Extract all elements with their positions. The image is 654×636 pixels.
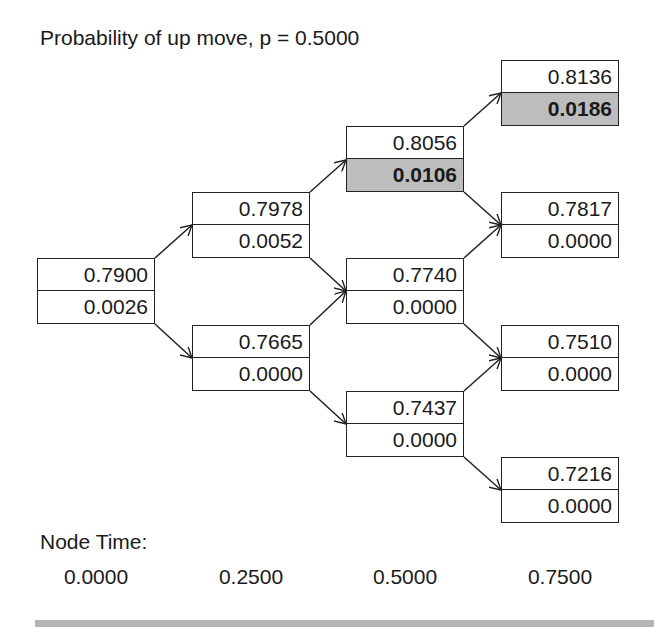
node-value: 0.7900: [38, 259, 154, 291]
arrow-up: [464, 225, 501, 258]
node-second-value: 0.0000: [347, 291, 463, 323]
tree-node-t3-1: 0.7817 0.0000: [501, 192, 619, 258]
node-time-label: Node Time:: [40, 530, 147, 554]
arrow-up: [464, 358, 501, 391]
node-second-value: 0.0026: [38, 291, 154, 323]
node-value: 0.7216: [502, 458, 618, 490]
tree-node-t2-0: 0.8056 0.0106: [346, 126, 464, 192]
arrow-down: [155, 324, 192, 358]
node-second-value: 0.0052: [193, 225, 309, 257]
node-time-1: 0.2500: [192, 565, 310, 589]
tree-node-t1-1: 0.7665 0.0000: [192, 325, 310, 391]
tree-node-t3-2: 0.7510 0.0000: [501, 325, 619, 391]
node-second-value: 0.0000: [502, 490, 618, 522]
arrow-up: [310, 160, 346, 192]
node-second-value: 0.0000: [193, 358, 309, 390]
node-time-2: 0.5000: [346, 565, 464, 589]
arrow-up: [310, 291, 346, 325]
node-second-value-highlighted: 0.0106: [347, 159, 463, 191]
node-value: 0.7437: [347, 392, 463, 424]
arrow-up: [464, 93, 501, 126]
tree-node-t1-0: 0.7978 0.0052: [192, 192, 310, 258]
arrow-up: [155, 225, 192, 258]
tree-node-t0-0: 0.7900 0.0026: [37, 258, 155, 324]
node-value: 0.8056: [347, 127, 463, 159]
node-second-value: 0.0000: [502, 225, 618, 257]
node-value: 0.7817: [502, 193, 618, 225]
node-value: 0.7665: [193, 326, 309, 358]
tree-node-t3-3: 0.7216 0.0000: [501, 457, 619, 523]
node-second-value: 0.0000: [502, 358, 618, 390]
arrow-down: [310, 258, 346, 291]
node-second-value: 0.0000: [347, 424, 463, 456]
tree-node-t3-0: 0.8136 0.0186: [501, 60, 619, 126]
node-value: 0.7510: [502, 326, 618, 358]
node-second-value-highlighted: 0.0186: [502, 93, 618, 125]
arrow-down: [464, 324, 501, 358]
divider: [35, 620, 654, 627]
node-value: 0.7978: [193, 193, 309, 225]
arrow-down: [310, 391, 346, 424]
node-time-3: 0.7500: [501, 565, 619, 589]
node-value: 0.8136: [502, 61, 618, 93]
arrow-down: [464, 457, 501, 490]
node-time-0: 0.0000: [37, 565, 155, 589]
tree-node-t2-2: 0.7437 0.0000: [346, 391, 464, 457]
arrow-down: [464, 192, 501, 225]
tree-node-t2-1: 0.7740 0.0000: [346, 258, 464, 324]
node-value: 0.7740: [347, 259, 463, 291]
